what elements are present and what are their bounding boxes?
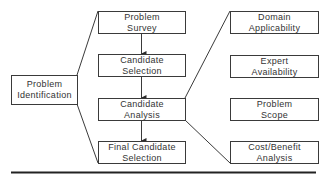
bracket-line-top-right: [185, 11, 230, 98]
box-label-line1: Domain: [258, 12, 291, 23]
box-label-line2: Analysis: [124, 110, 160, 121]
bracket-line-bottom-right: [185, 120, 230, 163]
box-label-line1: Problem: [124, 12, 160, 23]
box-candidate-selection: Candidate Selection: [98, 54, 186, 77]
box-label-line1: Candidate: [120, 55, 164, 66]
box-label-line1: Problem: [27, 79, 63, 90]
box-label-line2: Survey: [127, 23, 157, 34]
box-candidate-analysis: Candidate Analysis: [98, 98, 186, 121]
box-label-line2: Scope: [261, 110, 288, 121]
box-label-line2: Analysis: [257, 153, 293, 164]
box-label-line2: Availability: [252, 67, 298, 78]
box-label-line1: Expert: [261, 56, 289, 67]
box-label-line2: Selection: [122, 66, 162, 77]
box-final-candidate-selection: Final Candidate Selection: [98, 141, 186, 164]
bottom-rule: [11, 172, 316, 174]
box-expert-availability: Expert Availability: [230, 55, 319, 78]
box-label-line2: Identification: [17, 90, 72, 101]
box-problem-survey: Problem Survey: [98, 11, 186, 34]
box-label-line2: Applicability: [249, 23, 300, 34]
box-problem-scope: Problem Scope: [230, 98, 319, 121]
box-label-line1: Candidate: [120, 99, 164, 110]
box-domain-applicability: Domain Applicability: [230, 11, 319, 34]
bracket-line-bottom-left: [77, 104, 98, 163]
box-label-line1: Cost/Benefit: [248, 142, 301, 153]
box-problem-identification: Problem Identification: [11, 75, 78, 105]
box-cost-benefit-analysis: Cost/Benefit Analysis: [230, 141, 319, 164]
box-label-line1: Problem: [257, 99, 293, 110]
box-label-line1: Final Candidate: [108, 142, 176, 153]
bracket-line-top-left: [77, 11, 98, 75]
box-label-line2: Selection: [122, 153, 162, 164]
